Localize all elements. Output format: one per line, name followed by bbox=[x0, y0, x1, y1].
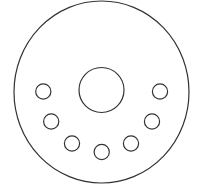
outer-circle bbox=[14, 1, 189, 183]
center-circle bbox=[79, 68, 124, 113]
small-circle-5 bbox=[123, 136, 138, 151]
small-circle-6 bbox=[144, 114, 159, 129]
small-circle-4 bbox=[94, 144, 109, 159]
circle-diagram bbox=[0, 0, 204, 196]
diagram-canvas bbox=[0, 0, 204, 196]
small-circle-3 bbox=[64, 136, 79, 151]
small-circle-2 bbox=[44, 114, 59, 129]
small-circle-1 bbox=[36, 84, 51, 99]
small-circle-7 bbox=[152, 84, 167, 99]
small-circle-arc bbox=[36, 84, 168, 160]
